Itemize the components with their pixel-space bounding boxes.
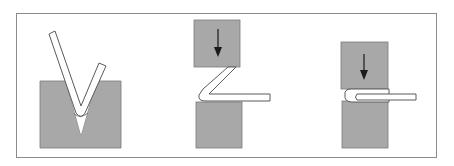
bending-process-diagram — [0, 0, 454, 166]
upper-punch-2 — [194, 20, 240, 67]
hemmed-strip-inner — [356, 94, 417, 100]
lower-die-2 — [196, 102, 242, 148]
lower-die-3 — [342, 101, 388, 148]
diagram-canvas — [0, 0, 454, 166]
